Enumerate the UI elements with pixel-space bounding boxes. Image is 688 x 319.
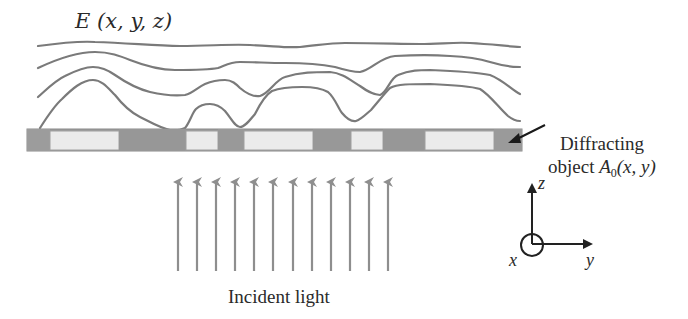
aperture-opaque-1 [27,129,50,151]
object-label: Diffracting object A0(x, y) [548,132,656,185]
wavefront-curve-2 [38,52,520,72]
incident-light-arrows [178,182,388,271]
aperture-opaque-4 [313,129,351,151]
incident-light-label: Incident light [228,286,330,308]
wavefront-curves [38,42,520,131]
aperture-opaque-2 [119,129,186,151]
diffraction-diagram: E (x, y, z) Diffracting object A0(x, y) … [0,0,688,319]
diffracting-object [27,129,522,151]
aperture-open-4 [351,131,383,150]
wavefront-curve-3 [38,67,520,97]
field-label: E (x, y, z) [75,9,172,33]
z-axis-label: z [538,173,545,194]
object-label-line1: Diffracting [548,132,656,155]
object-label-line2: object A0(x, y) [548,155,656,185]
y-axis-label: y [586,250,594,271]
x-axis-label: x [509,250,517,271]
aperture-open-5 [425,131,494,150]
object-symbol: A [599,156,611,177]
wavefront-curve-1 [38,42,520,48]
aperture-opaque-5 [383,129,425,151]
aperture-open-1 [50,131,119,150]
object-label-prefix: object [548,156,599,177]
field-symbol: E [75,9,90,33]
aperture-opaque-3 [218,129,244,151]
field-args: (x, y, z) [97,9,172,33]
aperture-open-2 [186,131,218,150]
object-args: (x, y) [617,156,656,177]
coordinate-axes [521,183,593,256]
wavefront-curve-4 [40,80,520,130]
aperture-open-3 [244,131,313,150]
